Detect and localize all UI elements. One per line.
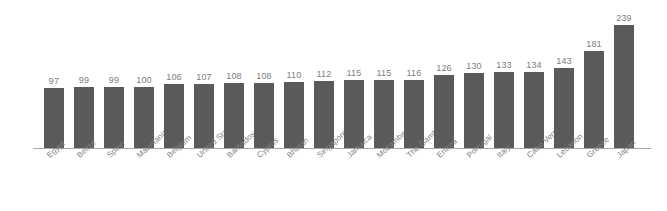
bar-group[interactable]: 134 bbox=[524, 72, 544, 148]
bar[interactable] bbox=[524, 72, 544, 148]
bar-group[interactable]: 143 bbox=[554, 68, 574, 148]
bar-group[interactable]: 181 bbox=[584, 51, 604, 148]
plot-area: 97Egypt99Belize99Spain100Mauritania106Be… bbox=[0, 0, 667, 211]
bar-value-label: 143 bbox=[545, 56, 583, 66]
bar-group[interactable]: 239 bbox=[614, 25, 634, 148]
bar-value-label: 181 bbox=[575, 39, 613, 49]
bar-value-label: 239 bbox=[605, 13, 643, 23]
bar-chart: 97Egypt99Belize99Spain100Mauritania106Be… bbox=[0, 0, 667, 211]
bar[interactable] bbox=[614, 25, 634, 148]
bar-group[interactable]: 133 bbox=[494, 72, 514, 148]
bar[interactable] bbox=[494, 72, 514, 148]
bar[interactable] bbox=[584, 51, 604, 148]
bar[interactable] bbox=[554, 68, 574, 148]
